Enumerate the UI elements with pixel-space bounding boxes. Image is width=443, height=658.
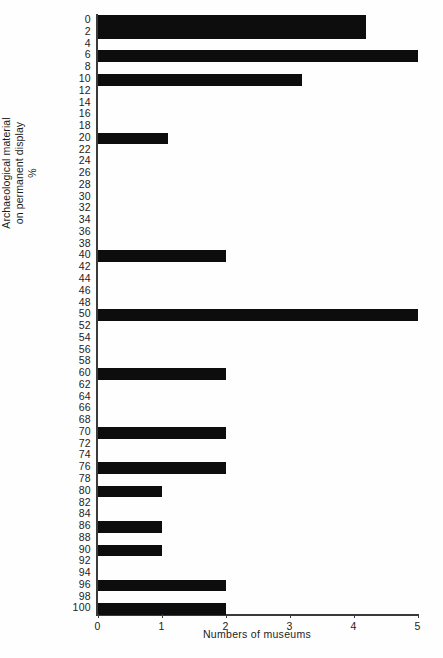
y-axis-tick-label: 54 — [79, 331, 91, 343]
bar — [98, 27, 367, 39]
bar — [98, 486, 162, 498]
y-axis-tick-label: 24 — [79, 154, 91, 166]
bar-row: 0 — [96, 15, 418, 27]
bar-row: 26 — [96, 168, 418, 180]
bar-row: 98 — [96, 592, 418, 604]
bar — [98, 15, 367, 27]
bar-row: 22 — [96, 145, 418, 157]
x-axis-tick — [354, 614, 355, 618]
x-axis-tick — [226, 614, 227, 618]
y-axis-tick-label: 40 — [79, 248, 91, 260]
y-axis-tick-label: 20 — [79, 131, 91, 143]
bar — [98, 309, 418, 321]
bar-row: 44 — [96, 274, 418, 286]
bar-row: 16 — [96, 109, 418, 121]
x-axis-title: Numbers of museums — [96, 628, 418, 640]
bar-row: 4 — [96, 39, 418, 51]
bar-row: 64 — [96, 392, 418, 404]
y-axis-tick-label: 16 — [79, 107, 91, 119]
bar-row: 70 — [96, 427, 418, 439]
bar-row: 18 — [96, 121, 418, 133]
y-axis-tick-label: 6 — [85, 48, 91, 60]
bar-row: 20 — [96, 133, 418, 145]
y-axis-tick-label: 78 — [79, 472, 91, 484]
y-axis-tick-label: 36 — [79, 225, 91, 237]
x-axis-tick — [162, 614, 163, 618]
bar-row: 14 — [96, 98, 418, 110]
y-axis-tick-label: 58 — [79, 354, 91, 366]
bar-row: 36 — [96, 227, 418, 239]
y-axis-title-line-1: Archaeological material — [0, 117, 13, 228]
bar-row: 60 — [96, 368, 418, 380]
bar-row: 86 — [96, 521, 418, 533]
bar-row: 34 — [96, 215, 418, 227]
y-axis-tick-label: 26 — [79, 166, 91, 178]
bar-row: 82 — [96, 498, 418, 510]
y-axis-tick-label: 22 — [79, 143, 91, 155]
y-axis-tick-label: 84 — [79, 507, 91, 519]
y-axis-tick-label: 80 — [79, 484, 91, 496]
bar-row: 100 — [96, 603, 418, 615]
y-axis-tick-label: 48 — [79, 296, 91, 308]
bar-row: 68 — [96, 415, 418, 427]
y-axis-tick-label: 14 — [79, 96, 91, 108]
bar — [98, 74, 303, 86]
bar-row: 78 — [96, 474, 418, 486]
y-axis-title-line-3: % — [26, 168, 39, 177]
x-axis-tick — [418, 614, 419, 618]
bar-row: 58 — [96, 356, 418, 368]
bar-row: 62 — [96, 380, 418, 392]
bar-row: 50 — [96, 309, 418, 321]
y-axis-tick-label: 60 — [79, 366, 91, 378]
bar-row: 84 — [96, 509, 418, 521]
y-axis-tick-label: 44 — [79, 272, 91, 284]
bar-row: 48 — [96, 298, 418, 310]
bar — [98, 250, 226, 262]
x-axis-tick — [290, 614, 291, 618]
bar — [98, 521, 162, 533]
y-axis-tick-label: 46 — [79, 284, 91, 296]
bar — [98, 50, 418, 62]
y-axis-tick-label: 38 — [79, 237, 91, 249]
bar-row: 32 — [96, 203, 418, 215]
y-axis-tick-label: 12 — [79, 84, 91, 96]
bar — [98, 427, 226, 439]
y-axis-title: Archaeological material on permanent dis… — [0, 78, 44, 268]
y-axis-tick-label: 90 — [79, 543, 91, 555]
bar-row: 66 — [96, 403, 418, 415]
bar-row: 88 — [96, 533, 418, 545]
bar — [98, 545, 162, 557]
bar — [98, 580, 226, 592]
y-axis-tick-label: 100 — [73, 601, 91, 613]
bar-row: 12 — [96, 86, 418, 98]
bar-row: 28 — [96, 180, 418, 192]
bar-row: 2 — [96, 27, 418, 39]
bar-row: 24 — [96, 156, 418, 168]
bar-row: 46 — [96, 286, 418, 298]
y-axis-tick-label: 62 — [79, 378, 91, 390]
y-axis-tick-label: 82 — [79, 496, 91, 508]
y-axis-tick-label: 68 — [79, 413, 91, 425]
y-axis-tick-label: 28 — [79, 178, 91, 190]
bar-row: 42 — [96, 262, 418, 274]
y-axis-tick-label: 72 — [79, 437, 91, 449]
bar-row: 56 — [96, 345, 418, 357]
y-axis-tick-label: 32 — [79, 201, 91, 213]
y-axis-tick-label: 66 — [79, 401, 91, 413]
bar-row: 90 — [96, 545, 418, 557]
y-axis-tick-label: 34 — [79, 213, 91, 225]
y-axis-tick-label: 86 — [79, 519, 91, 531]
y-axis-tick-label: 94 — [79, 566, 91, 578]
bar-row: 72 — [96, 439, 418, 451]
bar-row: 30 — [96, 192, 418, 204]
bar-row: 92 — [96, 556, 418, 568]
bar-row: 6 — [96, 50, 418, 62]
x-axis-tick — [98, 614, 99, 618]
y-axis-tick-label: 64 — [79, 390, 91, 402]
y-axis-tick-label: 30 — [79, 190, 91, 202]
y-axis-tick-label: 0 — [85, 13, 91, 25]
bar — [98, 133, 168, 145]
bar-row: 74 — [96, 450, 418, 462]
y-axis-tick-label: 70 — [79, 425, 91, 437]
y-axis-tick-label: 8 — [85, 60, 91, 72]
